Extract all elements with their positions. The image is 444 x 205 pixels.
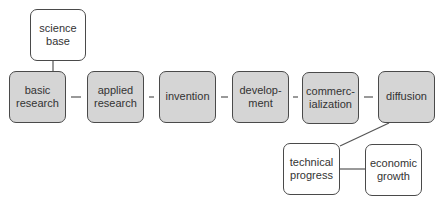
node-commercialization: commerc- ialization — [302, 72, 359, 124]
node-label: invention — [165, 90, 209, 104]
node-economic-growth: economic growth — [365, 144, 422, 196]
node-label: science base — [39, 22, 76, 49]
node-label: develop- ment — [239, 84, 281, 111]
node-invention: invention — [159, 71, 216, 123]
node-basic-research: basic research — [9, 71, 66, 123]
node-label: economic growth — [370, 157, 417, 184]
node-technical-progress: technical progress — [283, 143, 340, 195]
node-diffusion: diffusion — [378, 71, 435, 123]
node-label: commerc- ialization — [306, 85, 355, 112]
connector-diffusion-technical — [340, 123, 389, 146]
node-label: diffusion — [386, 90, 427, 104]
node-development: develop- ment — [232, 71, 289, 123]
node-applied-research: applied research — [87, 71, 144, 123]
node-label: applied research — [94, 84, 137, 111]
node-label: technical progress — [290, 156, 333, 183]
node-label: basic research — [16, 84, 59, 111]
node-science-base: science base — [30, 9, 86, 61]
